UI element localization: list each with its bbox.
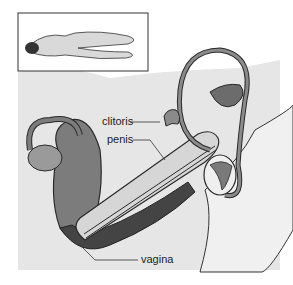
diagram-canvas: clitoris penis vagina [0, 0, 293, 285]
anatomy-illustration [0, 0, 293, 285]
inset-head [25, 42, 39, 54]
label-penis: penis [107, 133, 133, 145]
ovary [28, 145, 62, 171]
label-clitoris: clitoris [102, 115, 133, 127]
clitoris-shape [164, 110, 180, 126]
label-vagina: vagina [141, 253, 173, 265]
